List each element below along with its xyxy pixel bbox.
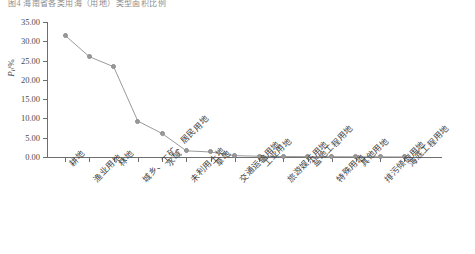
y-axis-tick-label: 25.00 xyxy=(21,56,40,65)
figure-caption-cropped: 图4 海南省各类用海（用地）类型面积比例 xyxy=(8,0,178,8)
x-axis-category-labels: 耕地渔业用地林地城乡、工矿、居民用地水域未利用土地草地交通运输用地工业用地旅游娱… xyxy=(47,157,475,254)
y-axis-tick-label: 15.00 xyxy=(21,95,40,104)
y-axis-title-unit: /% xyxy=(6,59,16,69)
y-axis-tick-label: 0.00 xyxy=(25,153,40,162)
y-axis-title: Pi/% xyxy=(6,59,16,76)
y-axis-tick-label: 20.00 xyxy=(21,76,40,85)
series-polyline xyxy=(65,36,404,157)
y-axis-tick-label: 10.00 xyxy=(21,114,40,123)
y-axis-tick-label: 5.00 xyxy=(25,133,40,142)
data-point xyxy=(63,33,68,38)
y-axis-tick-label: 30.00 xyxy=(21,37,40,46)
data-point xyxy=(160,131,165,136)
y-axis-tick-label: 35.00 xyxy=(21,18,40,27)
y-axis-title-symbol: P xyxy=(6,71,16,77)
chart-canvas: 图4 海南省各类用海（用地）类型面积比例 Pi/% 0.005.0010.001… xyxy=(0,0,475,254)
